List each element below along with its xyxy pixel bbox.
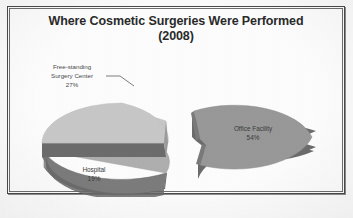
chart-title: Where Cosmetic Surgeries Were Performed … <box>8 14 344 44</box>
pie-label-hospital-name: Hospital <box>82 166 105 174</box>
pie-slice-office-facility <box>191 105 316 179</box>
chart-image: Where Cosmetic Surgeries Were Performed … <box>0 0 353 218</box>
pie-label-freestanding-line2: Surgery Center <box>51 72 93 79</box>
pie-label-freestanding: Free-standing Surgery Center 27% <box>51 63 134 88</box>
figure-caption <box>0 208 353 218</box>
pie-slice-freestanding-top2 <box>42 103 168 143</box>
chart-title-line1: Where Cosmetic Surgeries Were Performed <box>49 14 304 28</box>
pie-label-hospital-value: 19% <box>88 175 101 182</box>
chart-title-line2: (2008) <box>8 29 344 44</box>
pie-label-freestanding-value: 27% <box>66 81 79 88</box>
pie-slice-hospital <box>44 151 169 195</box>
pie-label-office-facility-value: 54% <box>247 134 260 141</box>
pie-label-freestanding-line1: Free-standing <box>53 63 92 70</box>
pie-chart: Office Facility 54% Hospital 19% Free-st… <box>16 47 338 197</box>
pie-slice-freestanding-band <box>42 143 166 157</box>
pie-label-freestanding-leader-line <box>106 76 134 86</box>
pie-label-office-facility-name: Office Facility <box>234 125 273 133</box>
chart-frame-border: Where Cosmetic Surgeries Were Performed … <box>7 6 345 194</box>
pie-slice-freestanding <box>42 103 168 165</box>
pie-chart-svg: Office Facility 54% Hospital 19% Free-st… <box>16 47 338 197</box>
